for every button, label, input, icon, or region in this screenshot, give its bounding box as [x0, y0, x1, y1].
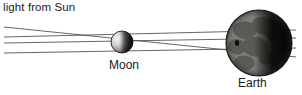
label-moon: Moon: [109, 58, 139, 72]
eclipse-diagram: light from Sun Moon Earth: [0, 0, 302, 95]
label-earth: Earth: [238, 76, 267, 90]
label-light-from-sun: light from Sun: [3, 1, 75, 13]
moon-body: [111, 31, 133, 53]
earth-body: [226, 10, 292, 76]
